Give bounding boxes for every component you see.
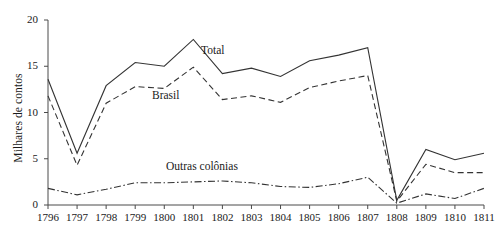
series-label-brasil: Brasil bbox=[152, 89, 179, 101]
x-tick-label: 1811 bbox=[464, 211, 500, 223]
series-line-brasil bbox=[48, 67, 484, 201]
x-axis-ticks bbox=[48, 205, 484, 209]
axis-lines bbox=[48, 20, 484, 205]
series-line-total bbox=[48, 39, 484, 200]
chart-container: Milhares de contos 05101520 179617971798… bbox=[0, 0, 500, 240]
plot-area bbox=[0, 0, 500, 240]
y-tick-label: 20 bbox=[12, 13, 38, 25]
y-tick-label: 5 bbox=[12, 152, 38, 164]
series-label-outras-colonias: Outras colônias bbox=[166, 160, 238, 172]
series-line-outras-colônias bbox=[48, 177, 484, 203]
y-tick-label: 15 bbox=[12, 59, 38, 71]
series-lines bbox=[48, 39, 484, 203]
y-tick-label: 0 bbox=[12, 198, 38, 210]
series-label-total: Total bbox=[201, 44, 224, 56]
y-tick-label: 10 bbox=[12, 106, 38, 118]
y-axis-ticks bbox=[44, 20, 48, 205]
